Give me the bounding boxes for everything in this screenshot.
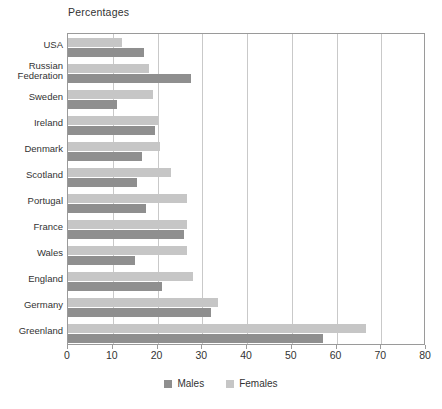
bar-females (68, 194, 187, 203)
bar-males (68, 74, 191, 83)
bar-group (68, 320, 424, 345)
x-axis-tick-label: 60 (330, 349, 342, 361)
bar-males (68, 256, 135, 265)
bar-males (68, 152, 142, 161)
x-axis-tick-label: 30 (195, 349, 207, 361)
bar-group (68, 190, 424, 216)
category-label: Denmark (0, 144, 63, 155)
bar-group (68, 112, 424, 138)
bar-males (68, 178, 137, 187)
bar-group (68, 268, 424, 294)
bar-females (68, 168, 171, 177)
legend-item[interactable]: Females (226, 378, 277, 389)
x-axis-tick-label: 70 (374, 349, 386, 361)
category-label: Portugal (0, 196, 63, 207)
bar-females (68, 38, 122, 47)
legend-item[interactable]: Males (164, 378, 204, 389)
bar-females (68, 220, 187, 229)
bar-females (68, 272, 193, 281)
bar-females (68, 298, 218, 307)
category-label: Ireland (0, 118, 63, 129)
bar-females (68, 116, 158, 125)
bar-group (68, 216, 424, 242)
x-axis-tick-labels: 01020304050607080 (0, 349, 442, 365)
legend-swatch-icon (226, 380, 234, 388)
bar-group (68, 164, 424, 190)
category-label: France (0, 222, 63, 233)
bar-group (68, 60, 424, 86)
x-axis-tick-label: 10 (106, 349, 118, 361)
bar-males (68, 230, 184, 239)
category-axis-labels: USARussian FederationSwedenIrelandDenmar… (0, 33, 63, 345)
bar-females (68, 90, 153, 99)
plot-area (67, 33, 425, 345)
category-label: Sweden (0, 92, 63, 103)
bar-group (68, 138, 424, 164)
category-label: Wales (0, 248, 63, 259)
category-label: USA (0, 40, 63, 51)
bar-females (68, 324, 366, 333)
category-label: Russian Federation (0, 61, 63, 82)
bar-group (68, 34, 424, 60)
bar-rows (68, 34, 424, 344)
x-axis-tick-label: 50 (285, 349, 297, 361)
category-label: Germany (0, 300, 63, 311)
bar-females (68, 246, 187, 255)
category-label: Greenland (0, 326, 63, 337)
bar-males (68, 204, 146, 213)
bar-group (68, 294, 424, 320)
x-axis-tick-label: 80 (419, 349, 431, 361)
category-label: Scotland (0, 170, 63, 181)
bar-males (68, 282, 162, 291)
bar-males (68, 100, 117, 109)
bar-males (68, 334, 323, 343)
legend-label: Females (239, 378, 277, 389)
bar-group (68, 242, 424, 268)
x-axis-tick-label: 40 (240, 349, 252, 361)
bar-males (68, 126, 155, 135)
bar-females (68, 142, 160, 151)
x-axis-tick-label: 0 (64, 349, 70, 361)
category-label: England (0, 274, 63, 285)
chart-title: Percentages (68, 6, 129, 18)
bar-females (68, 64, 149, 73)
legend-swatch-icon (164, 380, 172, 388)
bar-males (68, 308, 211, 317)
x-axis-tick-label: 20 (151, 349, 163, 361)
chart-legend: MalesFemales (0, 378, 442, 389)
legend-label: Males (177, 378, 204, 389)
percentages-bar-chart: Percentages USARussian FederationSwedenI… (0, 0, 442, 409)
bar-males (68, 48, 144, 57)
bar-group (68, 86, 424, 112)
